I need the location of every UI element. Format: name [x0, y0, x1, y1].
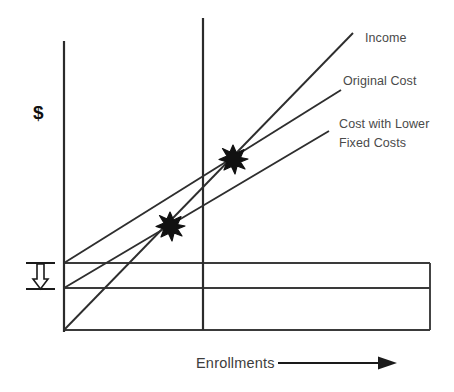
chart-figure: $ Income Original Cost Cost with Lower F…: [0, 0, 454, 392]
x-axis-label: Enrollments: [196, 355, 275, 371]
chart-background: [0, 0, 454, 392]
label-income: Income: [365, 31, 407, 45]
break-even-chart-svg: $ Income Original Cost Cost with Lower F…: [0, 0, 454, 392]
label-lower-fixed-cost-line1: Cost with Lower: [339, 117, 429, 131]
label-original-cost: Original Cost: [343, 74, 417, 88]
label-lower-fixed-cost-line2: Fixed Costs: [339, 136, 406, 150]
y-axis-label: $: [33, 102, 44, 123]
